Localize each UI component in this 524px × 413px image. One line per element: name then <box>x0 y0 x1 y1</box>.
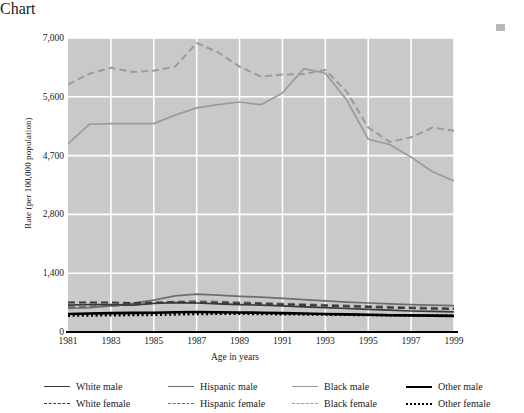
legend-item[interactable]: Black female <box>292 395 377 412</box>
legend-label: Black female <box>324 398 377 409</box>
x-tick-label: 1989 <box>220 336 260 346</box>
legend-item[interactable]: Hispanic female <box>168 395 265 412</box>
x-tick-label: 1981 <box>48 336 88 346</box>
legend-column: Other maleOther female <box>406 378 490 412</box>
legend-item[interactable]: Other female <box>406 395 490 412</box>
legend-label: White female <box>76 398 130 409</box>
legend-item[interactable]: Black male <box>292 378 377 395</box>
x-axis-tick-labels: 1981198319851987198919911993199519971999 <box>0 336 524 350</box>
legend-swatch-icon <box>168 399 194 409</box>
margin-note-bar <box>496 24 505 31</box>
series-line-hispanic-male <box>68 294 454 308</box>
x-axis-title: Age in years <box>0 352 470 362</box>
series-canvas <box>68 38 454 332</box>
series-line-black-male <box>68 69 454 181</box>
legend-swatch-icon <box>406 399 432 409</box>
legend-item[interactable]: White male <box>44 378 130 395</box>
legend-swatch-icon <box>406 382 432 392</box>
x-tick-label: 1995 <box>348 336 388 346</box>
y-tick-label: 5,600 <box>18 92 64 102</box>
legend-swatch-icon <box>168 382 194 392</box>
x-axis-line <box>66 331 458 333</box>
legend-column: White maleWhite female <box>44 378 130 412</box>
legend-label: Hispanic male <box>200 381 257 392</box>
legend-label: Other male <box>438 381 483 392</box>
plot-area <box>68 38 454 332</box>
x-tick-label: 1987 <box>177 336 217 346</box>
legend-label: Black male <box>324 381 369 392</box>
legend-item[interactable]: Other male <box>406 378 490 395</box>
chart-legend: White maleWhite femaleHispanic maleHispa… <box>44 378 514 412</box>
x-tick-label: 1985 <box>134 336 174 346</box>
chart-figure: Rate (per 100,000 population) 01,4002,80… <box>0 18 524 413</box>
y-tick-label: 7,000 <box>18 33 64 43</box>
x-tick-label: 1983 <box>91 336 131 346</box>
legend-item[interactable]: White female <box>44 395 130 412</box>
legend-column: Hispanic maleHispanic female <box>168 378 265 412</box>
legend-swatch-icon <box>292 382 318 392</box>
legend-label: White male <box>76 381 122 392</box>
x-tick-label: 1991 <box>262 336 302 346</box>
x-tick-label: 1999 <box>434 336 474 346</box>
y-tick-label: 1,400 <box>18 268 64 278</box>
legend-column: Black maleBlack female <box>292 378 377 412</box>
legend-label: Other female <box>438 398 490 409</box>
x-tick-label: 1997 <box>391 336 431 346</box>
y-tick-label: 2,800 <box>18 209 64 219</box>
margin-note <box>496 24 524 33</box>
y-tick-label: 4,700 <box>18 151 64 161</box>
series-line-black-female <box>68 43 454 142</box>
legend-label: Hispanic female <box>200 398 265 409</box>
legend-item[interactable]: Hispanic male <box>168 378 265 395</box>
x-tick-label: 1993 <box>305 336 345 346</box>
legend-swatch-icon <box>292 399 318 409</box>
legend-swatch-icon <box>44 399 70 409</box>
legend-swatch-icon <box>44 382 70 392</box>
